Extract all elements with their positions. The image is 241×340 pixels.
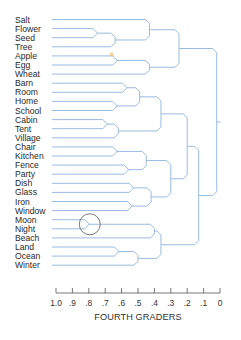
axis-title: FOURTH GRADERS — [94, 312, 182, 322]
branch-segment — [52, 33, 97, 38]
branch-segment — [52, 258, 138, 265]
branch-segment — [97, 33, 115, 40]
branch-segment — [128, 161, 146, 170]
branch-segment — [52, 29, 97, 34]
branch-segment — [187, 146, 198, 195]
branch-segment — [52, 56, 117, 61]
branch-segment — [52, 206, 131, 211]
axis-tick-label: .9 — [69, 298, 76, 308]
branch-segment — [151, 179, 171, 197]
branch-segment — [140, 97, 161, 114]
axis-tick-label: .8 — [85, 298, 92, 308]
branch-segment — [127, 88, 140, 97]
branch-segment — [52, 101, 117, 106]
branch-segment — [171, 146, 187, 178]
branch-segment — [115, 30, 149, 40]
axis-tick-label: .2 — [184, 298, 191, 308]
branch-segment — [52, 220, 89, 225]
branch-segment — [52, 231, 154, 238]
branch-segment — [138, 245, 161, 259]
axis-tick-label: .4 — [151, 298, 158, 308]
highlight-dot — [110, 52, 114, 56]
axis-tick-label: .5 — [135, 298, 142, 308]
branch-segment — [199, 122, 217, 196]
leaf-labels: SaltFlowerSeedTreeAppleEggWheatBarnRoomH… — [15, 15, 46, 271]
branch-segment — [52, 202, 131, 207]
branch-segment — [149, 49, 179, 68]
axis-tick-label: .1 — [200, 298, 207, 308]
branch-segment — [161, 114, 187, 146]
annotations — [79, 52, 113, 234]
branch-segment — [52, 131, 118, 138]
axis-tick-label: 0 — [218, 298, 223, 308]
axis-ticks: 1.0.9.8.7.6.5.4.3.2.10 — [50, 288, 222, 308]
branch-segment — [118, 114, 161, 131]
branch-segment — [149, 30, 179, 49]
branch-segment — [52, 165, 128, 170]
x-axis: 1.0.9.8.7.6.5.4.3.2.10 FOURTH GRADERS — [50, 288, 222, 322]
branch-segment — [52, 147, 117, 152]
branch-segment — [52, 151, 117, 156]
branch-segment — [179, 49, 217, 123]
dendrogram-figure: SaltFlowerSeedTreeAppleEggWheatBarnRoomH… — [0, 0, 241, 340]
branch-segment — [131, 197, 151, 206]
leaf-label: Winter — [15, 260, 40, 270]
branch-segment — [52, 40, 115, 47]
branch-segment — [117, 60, 150, 67]
branch-segment — [133, 188, 151, 197]
branch-segment — [52, 83, 127, 88]
axis-tick-label: .6 — [118, 298, 125, 308]
axis-tick-label: 1.0 — [50, 298, 62, 308]
axis-tick-label: .7 — [102, 298, 109, 308]
branch-segment — [52, 60, 117, 65]
branch-segment — [52, 88, 127, 93]
dendrogram-branches — [52, 20, 221, 266]
branch-segment — [52, 170, 128, 175]
branch-segment — [52, 183, 133, 188]
branch-segment — [52, 120, 107, 125]
branch-segment — [52, 252, 118, 257]
branch-segment — [117, 151, 147, 160]
branch-segment — [146, 161, 171, 179]
branch-segment — [52, 124, 107, 129]
branch-segment — [154, 231, 161, 245]
branch-segment — [52, 224, 89, 229]
branch-segment — [52, 67, 149, 74]
branch-segment — [52, 247, 118, 252]
branch-segment — [117, 97, 140, 106]
branch-segment — [118, 252, 138, 259]
branch-segment — [52, 188, 133, 193]
branch-segment — [161, 196, 199, 245]
axis-tick-label: .3 — [167, 298, 174, 308]
branch-segment — [107, 124, 118, 131]
branch-segment — [52, 106, 117, 111]
